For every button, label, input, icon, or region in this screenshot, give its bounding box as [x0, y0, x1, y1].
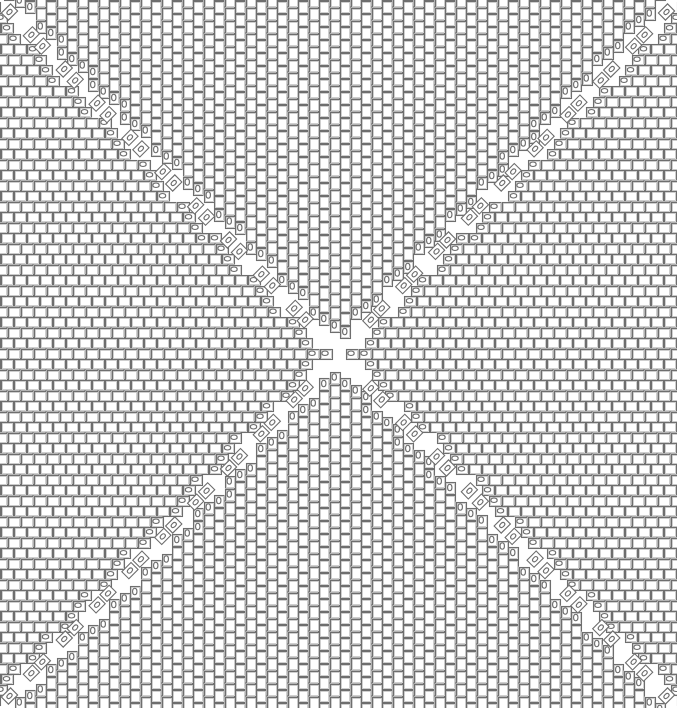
pattern-diagram: Brick tiling pattern with diagonal marke… [0, 0, 677, 708]
brick-pattern-canvas [0, 0, 677, 708]
